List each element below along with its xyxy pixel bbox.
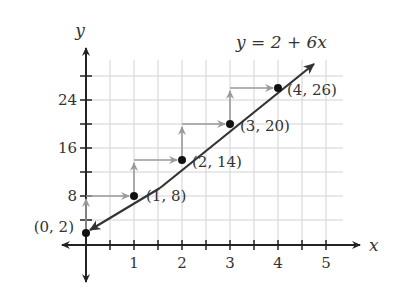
x-axis-label: x bbox=[369, 235, 379, 255]
linear-function-chart: y = 2 + 6x y x 1 2 3 4 5 8 16 24 (0, 2) … bbox=[0, 0, 404, 299]
point-2-14 bbox=[178, 156, 186, 164]
point-label: (2, 14) bbox=[192, 153, 242, 171]
y-tick-label: 24 bbox=[58, 91, 77, 109]
point-label: (0, 2) bbox=[34, 218, 74, 236]
point-0-2 bbox=[82, 229, 90, 237]
point-1-8 bbox=[130, 192, 138, 200]
equation-label: y = 2 + 6x bbox=[235, 32, 327, 52]
x-tick-label: 5 bbox=[321, 254, 331, 272]
point-3-20 bbox=[226, 120, 234, 128]
point-label: (3, 20) bbox=[240, 117, 290, 135]
x-tick-label: 3 bbox=[225, 254, 235, 272]
y-tick-label: 8 bbox=[67, 187, 77, 205]
x-tick-label: 2 bbox=[177, 254, 187, 272]
y-axis-label: y bbox=[74, 20, 85, 40]
x-tick-label: 4 bbox=[273, 254, 283, 272]
y-tick-label: 16 bbox=[58, 139, 77, 157]
point-4-26 bbox=[274, 84, 282, 92]
point-label: (4, 26) bbox=[287, 81, 337, 99]
x-tick-label: 1 bbox=[129, 254, 139, 272]
point-label: (1, 8) bbox=[146, 187, 186, 205]
